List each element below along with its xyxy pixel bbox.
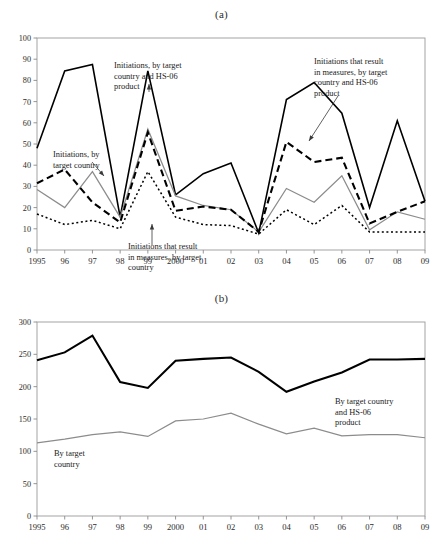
annotation-3-line-2: country and HS-06	[314, 78, 378, 87]
annotation-0-line-2: product	[335, 418, 361, 427]
chart-panel-b: (b) 050100150200250300199596979899200001…	[0, 285, 443, 556]
x-tick-label-96: 96	[60, 256, 69, 266]
annotation-1-line-1: country and HS-06	[114, 72, 178, 81]
x-tick-label-02: 02	[227, 256, 236, 266]
panel-a-title: (a)	[0, 0, 443, 20]
y-tick-label-150: 150	[19, 415, 31, 424]
annotation-leader-3	[309, 96, 338, 141]
y-tick-label-30: 30	[23, 182, 31, 191]
annotation-1-line-0: By target	[54, 449, 85, 458]
x-tick-label-05: 05	[310, 522, 319, 532]
y-tick-label-100: 100	[19, 34, 31, 43]
x-tick-label-09: 09	[421, 256, 430, 266]
y-tick-label-0: 0	[27, 246, 31, 255]
annotation-3-line-1: in measures, by target	[314, 68, 388, 77]
y-tick-label-20: 20	[23, 204, 31, 213]
plot-frame	[37, 322, 425, 516]
annotation-2-line-0: Initiations that result	[128, 242, 198, 251]
series-line-2	[37, 132, 425, 232]
y-tick-label-10: 10	[23, 225, 31, 234]
y-tick-label-50: 50	[23, 140, 31, 149]
annotation-3-line-3: product	[314, 89, 340, 98]
annotation-arrowhead-2	[150, 224, 154, 230]
x-tick-label-03: 03	[254, 256, 263, 266]
series-line-1	[37, 413, 425, 443]
x-tick-label-96: 96	[60, 522, 69, 532]
x-tick-label-06: 06	[338, 256, 347, 266]
x-tick-label-98: 98	[116, 256, 125, 266]
y-tick-label-250: 250	[19, 350, 31, 359]
y-tick-label-80: 80	[23, 76, 31, 85]
y-tick-label-40: 40	[23, 161, 31, 170]
y-tick-label-60: 60	[23, 119, 31, 128]
annotation-0-line-0: By target country	[335, 397, 394, 406]
annotation-2-line-2: country	[128, 263, 154, 272]
annotation-1-line-2: product	[114, 82, 140, 91]
x-tick-label-1995: 1995	[28, 522, 45, 532]
y-tick-label-300: 300	[19, 318, 31, 327]
x-tick-label-97: 97	[88, 256, 97, 266]
x-tick-label-07: 07	[365, 522, 374, 532]
panel-a-plot-area: 0102030405060708090100199596979899200001…	[0, 24, 443, 286]
panel-b-plot-area: 0501001502002503001995969798992000010203…	[0, 308, 443, 556]
annotation-arrowhead-3	[309, 135, 314, 141]
y-tick-label-50: 50	[23, 480, 31, 489]
x-tick-label-08: 08	[393, 522, 402, 532]
x-tick-label-07: 07	[365, 256, 374, 266]
x-tick-label-02: 02	[227, 522, 236, 532]
y-tick-label-90: 90	[23, 55, 31, 64]
x-tick-label-99: 99	[144, 522, 153, 532]
y-tick-label-100: 100	[19, 447, 31, 456]
x-tick-label-98: 98	[116, 522, 125, 532]
y-tick-label-200: 200	[19, 383, 31, 392]
x-tick-label-2000: 2000	[167, 522, 184, 532]
annotation-0-line-0: Initiations, by	[53, 150, 100, 159]
x-tick-label-08: 08	[393, 256, 402, 266]
x-tick-label-05: 05	[310, 256, 319, 266]
x-tick-label-09: 09	[421, 522, 430, 532]
series-line-0	[37, 65, 425, 234]
panel-b-svg: 0501001502002503001995969798992000010203…	[0, 308, 443, 556]
x-tick-label-04: 04	[282, 522, 291, 532]
series-line-0	[37, 336, 425, 392]
x-tick-label-03: 03	[254, 522, 263, 532]
annotation-2-line-1: in measures, by target	[128, 253, 202, 262]
annotation-3-line-0: Initiations that result	[314, 57, 384, 66]
annotation-1-line-1: country	[54, 460, 80, 469]
annotation-0-line-1: and HS-06	[335, 408, 371, 417]
panel-a-svg: 0102030405060708090100199596979899200001…	[0, 24, 443, 286]
x-tick-label-01: 01	[199, 522, 208, 532]
y-tick-label-0: 0	[27, 512, 31, 521]
panel-b-title: (b)	[0, 285, 443, 304]
x-tick-label-04: 04	[282, 256, 291, 266]
x-tick-label-06: 06	[338, 522, 347, 532]
annotation-1-line-0: Initiations, by target	[114, 61, 182, 70]
x-tick-label-97: 97	[88, 522, 97, 532]
y-tick-label-70: 70	[23, 98, 31, 107]
x-tick-label-1995: 1995	[28, 256, 45, 266]
annotation-0-line-1: target country	[53, 161, 100, 170]
chart-panel-a: (a) 010203040506070809010019959697989920…	[0, 0, 443, 285]
